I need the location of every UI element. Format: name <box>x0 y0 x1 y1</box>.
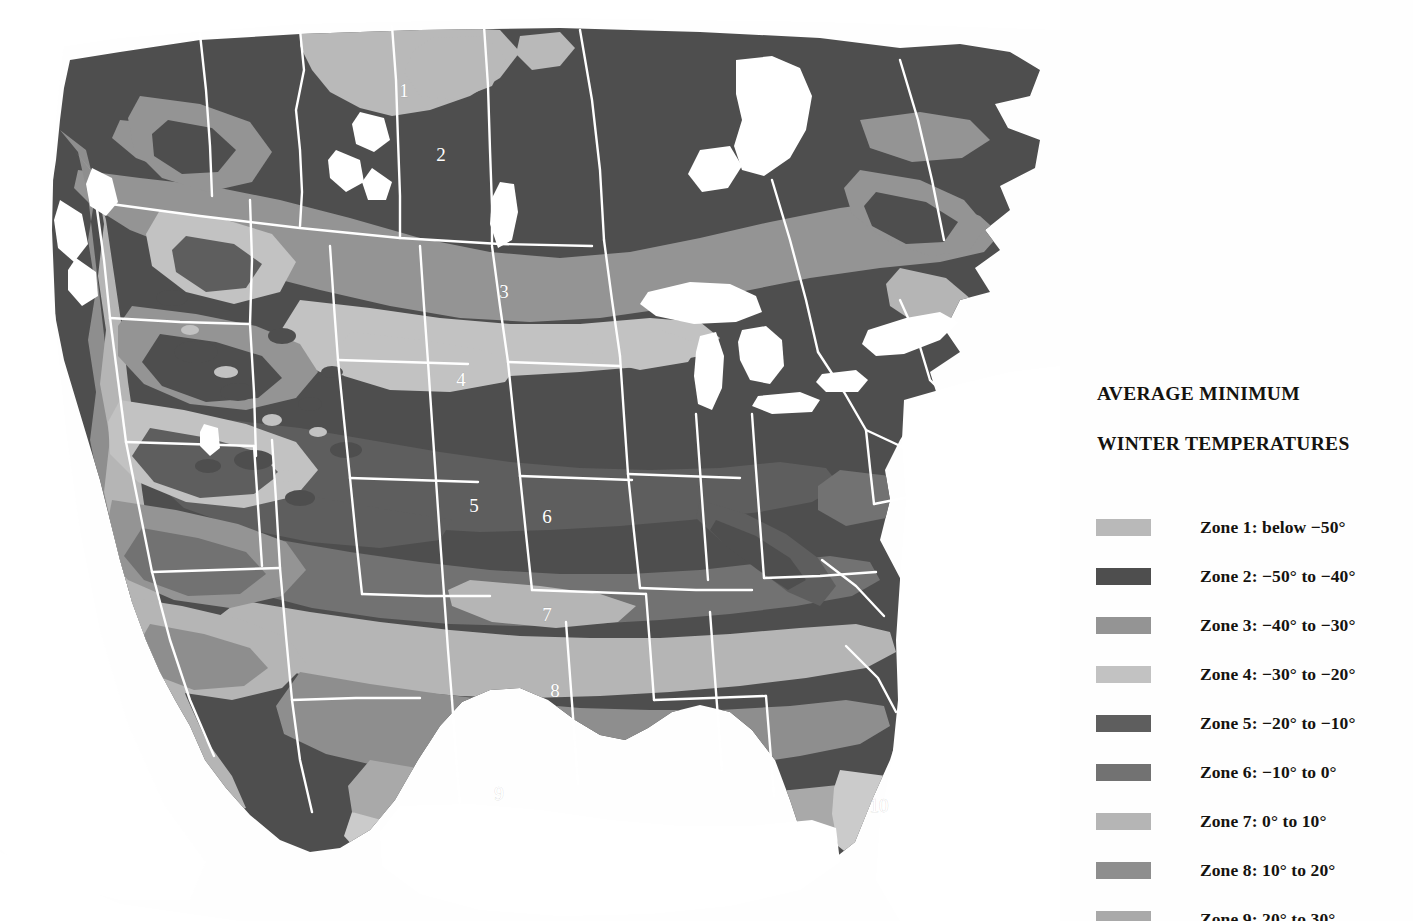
hardiness-zone-figure: 1 2 3 4 5 6 7 8 9 10 AVERAGE MINIMUM WIN… <box>0 0 1413 921</box>
legend-label-zone-9: Zone 9: 20° to 30° <box>1200 909 1335 921</box>
zone-label-4: 4 <box>456 369 466 390</box>
legend-row-zone-1: Zone 1: below −50° <box>1096 503 1413 552</box>
legend-row-zone-7: Zone 7: 0° to 10° <box>1096 797 1413 846</box>
legend-row-zone-6: Zone 6: −10° to 0° <box>1096 748 1413 797</box>
zone-label-6: 6 <box>542 506 552 527</box>
legend-row-zone-2: Zone 2: −50° to −40° <box>1096 552 1413 601</box>
legend-label-zone-4: Zone 4: −30° to −20° <box>1200 664 1356 685</box>
zone-label-8: 8 <box>550 680 560 701</box>
zone-label-3: 3 <box>499 281 509 302</box>
legend-label-zone-3: Zone 3: −40° to −30° <box>1200 615 1356 636</box>
legend-row-zone-3: Zone 3: −40° to −30° <box>1096 601 1413 650</box>
legend-swatch-zone-2 <box>1096 568 1151 585</box>
legend-swatch-zone-4 <box>1096 666 1151 683</box>
legend-swatch-zone-1 <box>1096 519 1151 536</box>
legend: AVERAGE MINIMUM WINTER TEMPERATURES Zone… <box>1096 356 1413 921</box>
legend-rows: Zone 1: below −50° Zone 2: −50° to −40° … <box>1096 503 1413 921</box>
legend-label-zone-5: Zone 5: −20° to −10° <box>1200 713 1356 734</box>
map-panel: 1 2 3 4 5 6 7 8 9 10 <box>0 0 1060 921</box>
legend-row-zone-9: Zone 9: 20° to 30° <box>1096 895 1413 921</box>
legend-row-zone-4: Zone 4: −30° to −20° <box>1096 650 1413 699</box>
zone-map: 1 2 3 4 5 6 7 8 9 10 <box>0 0 1060 921</box>
legend-title-line-1: AVERAGE MINIMUM <box>1097 381 1413 406</box>
legend-row-zone-8: Zone 8: 10° to 20° <box>1096 846 1413 895</box>
legend-swatch-zone-5 <box>1096 715 1151 732</box>
legend-label-zone-8: Zone 8: 10° to 20° <box>1200 860 1335 881</box>
legend-swatch-zone-3 <box>1096 617 1151 634</box>
zone-label-10: 10 <box>870 795 889 816</box>
legend-label-zone-7: Zone 7: 0° to 10° <box>1200 811 1327 832</box>
legend-swatch-zone-8 <box>1096 862 1151 879</box>
zone-label-2: 2 <box>436 144 446 165</box>
legend-label-zone-1: Zone 1: below −50° <box>1200 517 1346 538</box>
zone-label-1: 1 <box>399 80 409 101</box>
legend-row-zone-5: Zone 5: −20° to −10° <box>1096 699 1413 748</box>
zone-label-7: 7 <box>542 604 552 625</box>
legend-swatch-zone-9 <box>1096 911 1151 921</box>
legend-title: AVERAGE MINIMUM WINTER TEMPERATURES <box>1097 356 1413 481</box>
zone-label-9: 9 <box>494 783 504 804</box>
legend-title-line-2: WINTER TEMPERATURES <box>1097 431 1413 456</box>
zone-label-5: 5 <box>469 495 479 516</box>
legend-swatch-zone-6 <box>1096 764 1151 781</box>
legend-label-zone-6: Zone 6: −10° to 0° <box>1200 762 1337 783</box>
legend-swatch-zone-7 <box>1096 813 1151 830</box>
legend-label-zone-2: Zone 2: −50° to −40° <box>1200 566 1356 587</box>
